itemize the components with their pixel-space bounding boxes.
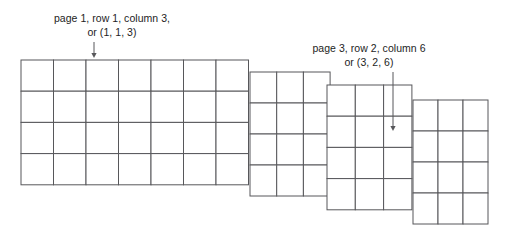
cell-p1-r4-c6[interactable] [184,154,217,185]
down-arrow-icon [91,53,96,58]
cell-p4-r3-c1[interactable] [413,162,438,193]
cell-p1-r4-c1[interactable] [21,154,54,185]
cell-p4-r4-c1[interactable] [413,193,438,224]
cell-p3-r2-c1[interactable] [327,116,355,147]
cell-p1-r2-c6[interactable] [184,91,217,122]
cell-p1-r2-c1[interactable] [21,91,54,122]
cell-p1-r1-c1[interactable] [21,60,54,91]
cell-p1-r4-c7[interactable] [216,154,249,185]
cell-p1-r3-c4[interactable] [119,122,152,153]
pointer-page-1 [91,42,96,58]
cell-p2-r2-c2[interactable] [277,103,304,134]
cell-p1-r4-c4[interactable] [119,154,152,185]
cell-p2-r4-c3[interactable] [303,165,330,196]
cell-p4-r1-c1[interactable] [413,100,438,131]
cell-p1-r2-c3[interactable] [86,91,119,122]
cell-p3-r1-c3[interactable] [384,85,412,116]
cell-p2-r3-c2[interactable] [277,134,304,165]
page-1-grid [21,60,249,185]
page-4-grid [413,100,488,224]
cell-p1-r1-c5[interactable] [151,60,184,91]
cell-p1-r2-c7[interactable] [216,91,249,122]
cell-p2-r1-c3[interactable] [303,72,330,103]
pages-layer [21,60,488,224]
cell-p4-r4-c3[interactable] [463,193,488,224]
cell-p2-r4-c1[interactable] [250,165,277,196]
cell-p1-r1-c3[interactable] [86,60,119,91]
cell-p4-r2-c3[interactable] [463,131,488,162]
cell-p3-r2-c3[interactable] [384,116,412,147]
cell-p4-r2-c2[interactable] [438,131,463,162]
cell-p2-r3-c1[interactable] [250,134,277,165]
page-3-grid [327,85,412,210]
cell-p2-r2-c1[interactable] [250,103,277,134]
cell-p3-r4-c3[interactable] [384,179,412,210]
cell-p1-r1-c6[interactable] [184,60,217,91]
cell-p3-r4-c1[interactable] [327,179,355,210]
cell-p4-r3-c2[interactable] [438,162,463,193]
stacked-pages-diagram [0,0,508,243]
cell-p4-r4-c2[interactable] [438,193,463,224]
cell-p1-r4-c3[interactable] [86,154,119,185]
cell-p1-r3-c3[interactable] [86,122,119,153]
cell-p2-r1-c2[interactable] [277,72,304,103]
cell-p4-r2-c1[interactable] [413,131,438,162]
cell-p1-r3-c2[interactable] [54,122,87,153]
cell-p3-r1-c1[interactable] [327,85,355,116]
cell-p2-r4-c2[interactable] [277,165,304,196]
cell-p1-r1-c2[interactable] [54,60,87,91]
cell-p2-r3-c3[interactable] [303,134,330,165]
cell-p3-r3-c2[interactable] [355,147,383,178]
cell-p1-r1-c7[interactable] [216,60,249,91]
cell-p1-r3-c7[interactable] [216,122,249,153]
cell-p3-r2-c2[interactable] [355,116,383,147]
cell-p1-r2-c2[interactable] [54,91,87,122]
cell-p1-r3-c5[interactable] [151,122,184,153]
cell-p1-r4-c5[interactable] [151,154,184,185]
cell-p2-r1-c1[interactable] [250,72,277,103]
cell-p1-r4-c2[interactable] [54,154,87,185]
cell-p3-r3-c3[interactable] [384,147,412,178]
cell-p4-r3-c3[interactable] [463,162,488,193]
figure-root: page 1, row 1, column 3, or (1, 1, 3) pa… [0,0,508,243]
cell-p1-r3-c1[interactable] [21,122,54,153]
cell-p3-r4-c2[interactable] [355,179,383,210]
cell-p3-r1-c2[interactable] [355,85,383,116]
cell-p2-r2-c3[interactable] [303,103,330,134]
cell-p1-r3-c6[interactable] [184,122,217,153]
cell-p3-r3-c1[interactable] [327,147,355,178]
cell-p1-r2-c4[interactable] [119,91,152,122]
cell-p4-r1-c3[interactable] [463,100,488,131]
cell-p4-r1-c2[interactable] [438,100,463,131]
page-2-grid [250,72,330,196]
cell-p1-r1-c4[interactable] [119,60,152,91]
cell-p1-r2-c5[interactable] [151,91,184,122]
